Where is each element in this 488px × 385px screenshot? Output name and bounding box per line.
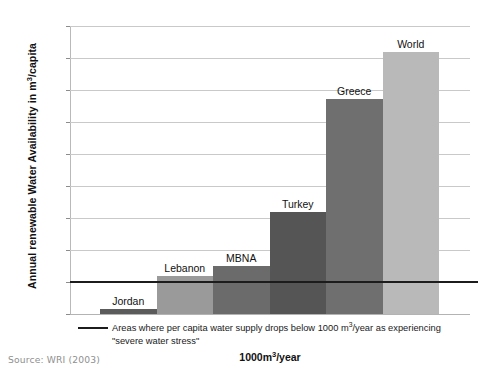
y-tick-mark-5000 <box>66 154 70 155</box>
gridline-9000 <box>70 26 470 27</box>
bar-mbna[interactable] <box>213 266 270 314</box>
y-tick-mark-8000 <box>66 58 70 59</box>
legend-line-marker <box>78 327 108 329</box>
x-axis-title-main: 1000m <box>239 351 272 363</box>
caption-line1-a: Areas where per capita water supply drop… <box>112 323 349 333</box>
x-axis-title: 1000m3/year <box>70 351 470 363</box>
x-axis-title-tail: /year <box>276 351 301 363</box>
threshold-legend-caption: Areas where per capita water supply drop… <box>78 322 468 348</box>
bar-jordan[interactable] <box>100 309 157 314</box>
y-tick-mark-2000 <box>66 250 70 251</box>
bar-world[interactable] <box>383 52 440 314</box>
bar-turkey[interactable] <box>270 212 327 314</box>
bar-label-world: World <box>371 39 452 50</box>
y-axis-title-superscript: 3 <box>25 77 34 81</box>
y-tick-mark-7000 <box>66 90 70 91</box>
y-tick-mark-6000 <box>66 122 70 123</box>
plot-area: 0100020003000400050006000700080009000 Jo… <box>70 26 470 314</box>
water-availability-bar-chart: Annual renewable Water Availability in m… <box>0 0 488 385</box>
gridline-0 <box>70 314 470 315</box>
y-axis-title-tail: /capita <box>26 43 38 77</box>
y-tick-mark-3000 <box>66 218 70 219</box>
source-note: Source: WRI (2003) <box>8 354 100 365</box>
caption-line2: "severe water stress" <box>112 335 468 348</box>
y-tick-mark-0 <box>66 314 70 315</box>
y-axis-title-main: Annual renewable Water Availability in m <box>26 81 38 289</box>
y-tick-mark-4000 <box>66 186 70 187</box>
threshold-line-1000 <box>70 281 478 283</box>
y-axis-title: Annual renewable Water Availability in m… <box>26 16 38 316</box>
y-axis-line <box>70 26 71 315</box>
caption-line1-b: /year as experiencing <box>352 323 440 333</box>
y-tick-mark-9000 <box>66 26 70 27</box>
